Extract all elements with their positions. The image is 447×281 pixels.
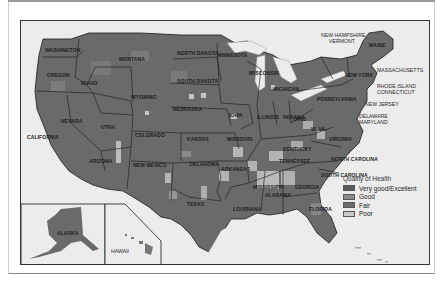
legend-title: Quality of Health — [343, 175, 428, 182]
legend-item-fair: Fair — [343, 201, 428, 210]
svg-text:SOUTH DAKOTA: SOUTH DAKOTA — [177, 78, 218, 84]
swatch-very-good — [343, 185, 355, 191]
svg-text:TEXAS: TEXAS — [187, 201, 205, 207]
svg-text:ARIZONA: ARIZONA — [89, 158, 113, 164]
svg-text:ALASKA: ALASKA — [57, 230, 79, 236]
us-health-map: WASHINGTON OREGON CALIFORNIA IDAHO NEVAD… — [20, 20, 430, 265]
svg-text:NEBRASKA: NEBRASKA — [173, 106, 202, 112]
map-canvas: WASHINGTON OREGON CALIFORNIA IDAHO NEVAD… — [21, 21, 430, 265]
svg-text:HAWAII: HAWAII — [111, 248, 129, 254]
legend-item-poor: Poor — [343, 210, 428, 219]
svg-text:GEORGIA: GEORGIA — [295, 184, 320, 190]
svg-text:CONNECTICUT: CONNECTICUT — [377, 89, 416, 95]
svg-text:WISCONSIN: WISCONSIN — [249, 70, 279, 76]
svg-text:ALABAMA: ALABAMA — [265, 192, 291, 198]
svg-text:KANSAS: KANSAS — [187, 136, 209, 142]
swatch-fair — [343, 202, 355, 208]
swatch-poor — [343, 211, 355, 217]
svg-text:MISSOURI: MISSOURI — [227, 136, 253, 142]
svg-text:OREGON: OREGON — [47, 72, 70, 78]
svg-text:MINNESOTA: MINNESOTA — [217, 52, 248, 58]
svg-text:MISSISSIPPI: MISSISSIPPI — [253, 184, 284, 190]
svg-text:UTAH: UTAH — [101, 124, 115, 130]
svg-text:MONTANA: MONTANA — [119, 56, 145, 62]
svg-text:WASHINGTON: WASHINGTON — [45, 47, 81, 53]
svg-text:IDAHO: IDAHO — [81, 80, 98, 86]
svg-text:FLORIDA: FLORIDA — [309, 206, 332, 212]
svg-text:VERMONT: VERMONT — [329, 38, 356, 44]
legend-item-very-good: Very good/Excellent — [343, 184, 428, 193]
svg-text:NEVADA: NEVADA — [61, 118, 83, 124]
svg-text:ILLINOIS: ILLINOIS — [257, 114, 279, 120]
svg-text:OHIO: OHIO — [293, 116, 306, 122]
svg-text:LOUISIANA: LOUISIANA — [233, 206, 262, 212]
svg-text:NEW JERSEY: NEW JERSEY — [365, 101, 399, 107]
svg-text:TENNESSEE: TENNESSEE — [279, 158, 311, 164]
svg-text:PENNSYLVANIA: PENNSYLVANIA — [317, 96, 357, 102]
svg-text:W. VA.: W. VA. — [311, 126, 327, 132]
svg-text:WYOMING: WYOMING — [131, 94, 157, 100]
svg-text:MASSACHUSETTS: MASSACHUSETTS — [377, 67, 424, 73]
svg-text:OKLAHOMA: OKLAHOMA — [189, 161, 220, 167]
svg-text:NEW MEXICO: NEW MEXICO — [133, 162, 167, 168]
svg-text:VIRGINIA: VIRGINIA — [329, 136, 352, 142]
svg-text:KENTUCKY: KENTUCKY — [283, 146, 312, 152]
svg-text:MAINE: MAINE — [369, 42, 386, 48]
svg-text:NORTH DAKOTA: NORTH DAKOTA — [177, 50, 219, 56]
svg-text:IOWA: IOWA — [229, 112, 243, 118]
svg-text:MARYLAND: MARYLAND — [359, 119, 388, 125]
svg-text:COLORADO: COLORADO — [135, 132, 165, 138]
svg-text:ARKANSAS: ARKANSAS — [221, 166, 251, 172]
svg-text:CALIFORNIA: CALIFORNIA — [27, 134, 59, 140]
svg-text:NEW YORK: NEW YORK — [345, 72, 373, 78]
map-legend: Quality of Health Very good/Excellent Go… — [343, 175, 428, 218]
swatch-good — [343, 194, 355, 200]
svg-text:MICHIGAN: MICHIGAN — [273, 86, 299, 92]
legend-item-good: Good — [343, 193, 428, 202]
svg-text:NORTH CAROLINA: NORTH CAROLINA — [331, 156, 378, 162]
